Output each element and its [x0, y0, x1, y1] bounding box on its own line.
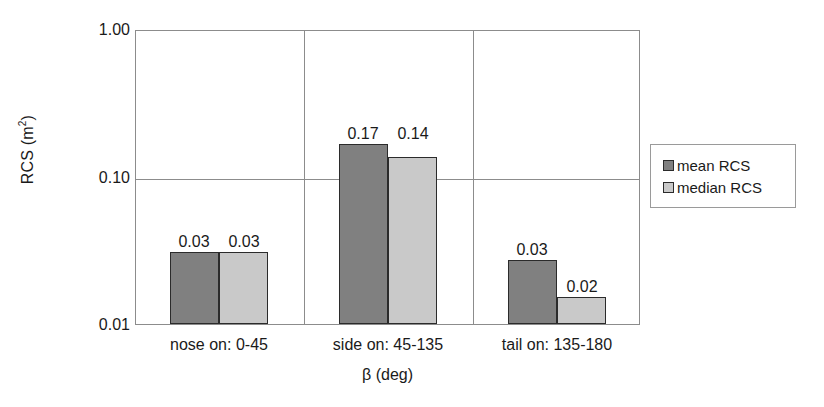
plot-area: 0.03 0.03 0.17 0.14 0.03 0.02	[135, 30, 640, 325]
legend: mean RCS median RCS	[650, 144, 796, 208]
legend-item-mean-rcs[interactable]: mean RCS	[663, 154, 795, 176]
value-label-median-tail-on: 0.02	[566, 279, 597, 295]
bar-mean-tail-on[interactable]	[508, 260, 557, 324]
bar-mean-side-on[interactable]	[339, 144, 388, 324]
value-label-mean-side-on: 0.17	[347, 126, 378, 142]
x-category-label-nose-on: nose on: 0-45	[170, 336, 268, 354]
bar-mean-nose-on[interactable]	[170, 252, 219, 324]
rcs-bar-chart-figure: RCS (m2) 1.00 0.10 0.01 0.03 0.03 0.17 0…	[0, 0, 824, 407]
y-tick-label-1: 1.00	[70, 22, 130, 38]
x-category-label-side-on: side on: 45-135	[333, 336, 443, 354]
value-label-median-side-on: 0.14	[397, 126, 428, 142]
value-label-median-nose-on: 0.03	[228, 234, 259, 250]
legend-label-median-rcs: median RCS	[677, 179, 762, 196]
y-axis-title-text: RCS (m	[19, 126, 36, 184]
x-axis-title: β (deg)	[135, 366, 640, 384]
y-axis-tick-labels: 1.00 0.10 0.01	[60, 0, 130, 407]
bar-median-side-on[interactable]	[388, 157, 437, 324]
bar-median-nose-on[interactable]	[219, 252, 268, 324]
y-axis-title-exponent: 2	[17, 121, 28, 127]
bar-median-tail-on[interactable]	[557, 297, 606, 324]
category-separator-2	[473, 31, 474, 324]
legend-item-median-rcs[interactable]: median RCS	[663, 176, 795, 198]
y-tick-label-2: 0.10	[70, 170, 130, 186]
value-label-mean-nose-on: 0.03	[178, 234, 209, 250]
category-separator-1	[304, 31, 305, 324]
light-gray-swatch-icon	[663, 182, 674, 193]
y-axis-title-close: )	[19, 115, 36, 121]
y-tick-label-3: 0.01	[70, 317, 130, 333]
x-category-label-tail-on: tail on: 135-180	[502, 336, 612, 354]
y-axis-title: RCS (m2)	[17, 85, 36, 215]
value-label-mean-tail-on: 0.03	[516, 242, 547, 258]
dark-gray-swatch-icon	[663, 160, 674, 171]
legend-label-mean-rcs: mean RCS	[677, 157, 750, 174]
